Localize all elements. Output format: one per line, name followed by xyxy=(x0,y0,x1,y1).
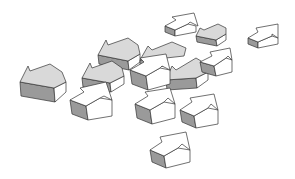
up-right-arrow-icon xyxy=(70,82,112,120)
arrows-artwork xyxy=(0,0,295,179)
up-right-arrow-icon xyxy=(135,88,175,124)
up-right-arrow-icon xyxy=(200,48,232,76)
up-right-arrow-icon xyxy=(180,94,218,128)
left-arrow-icon xyxy=(20,64,66,102)
arrows-illustration xyxy=(0,0,295,179)
up-right-arrow-icon xyxy=(248,24,278,48)
left-arrow-icon xyxy=(196,24,226,46)
up-right-arrow-icon xyxy=(150,132,190,168)
up-right-arrow-icon xyxy=(165,13,198,36)
